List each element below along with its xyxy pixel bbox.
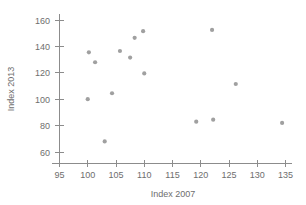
data-point: [142, 71, 146, 75]
x-tick-label: 100: [80, 170, 95, 180]
x-tick-label: 115: [165, 170, 179, 180]
y-axis: 6080100120140160: [35, 14, 64, 163]
plot-area: 6080100120140160 95100105110115120125130…: [0, 0, 306, 205]
y-tick-label: 120: [35, 68, 50, 78]
data-point: [133, 36, 137, 40]
y-tick-label: 80: [40, 121, 50, 131]
y-tick-label: 160: [35, 16, 50, 26]
x-tick-label: 105: [108, 170, 123, 180]
data-point: [128, 56, 132, 60]
data-point: [93, 60, 97, 64]
data-point: [211, 118, 215, 122]
data-point: [210, 28, 214, 32]
x-tick-label: 125: [221, 170, 236, 180]
x-tick-label: 95: [54, 170, 64, 180]
data-point: [110, 91, 114, 95]
data-point: [86, 97, 90, 101]
data-point: [103, 139, 107, 143]
data-point: [87, 50, 91, 54]
data-points: [86, 28, 285, 144]
x-tick-label: 120: [193, 170, 208, 180]
data-point: [280, 121, 284, 125]
x-tick-label: 135: [278, 170, 293, 180]
y-tick-label: 100: [35, 95, 50, 105]
x-tick-label: 130: [250, 170, 265, 180]
data-point: [118, 49, 122, 53]
scatter-chart: 6080100120140160 95100105110115120125130…: [0, 0, 306, 205]
y-tick-label: 60: [40, 148, 50, 158]
data-point: [194, 120, 198, 124]
x-tick-label: 110: [137, 170, 151, 180]
x-axis-title: Index 2007: [151, 189, 196, 199]
y-axis-title: Index 2013: [6, 67, 16, 112]
data-point: [141, 29, 145, 33]
y-tick-label: 140: [35, 42, 50, 52]
x-axis: 95100105110115120125130135: [52, 160, 293, 180]
data-point: [234, 82, 238, 86]
